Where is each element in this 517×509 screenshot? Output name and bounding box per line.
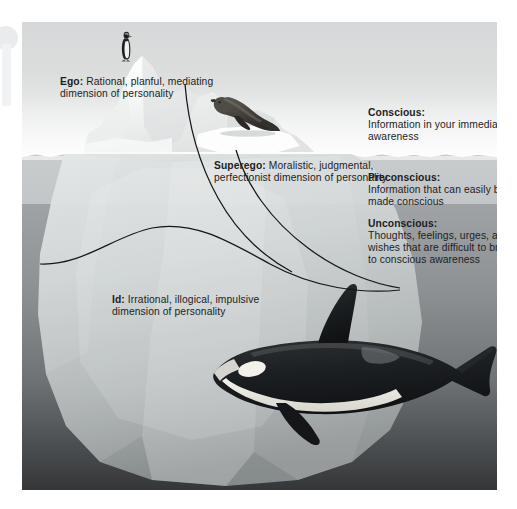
label-unconscious-body: Thoughts, feelings, urges, and wishes th…	[368, 230, 497, 266]
label-ego-body: Rational, planful, mediating dimension o…	[60, 76, 213, 99]
label-id-heading: Id:	[112, 294, 125, 305]
page-background: Ego: Rational, planful, mediating dimens…	[0, 0, 517, 509]
label-unconscious-heading: Unconscious:	[368, 218, 497, 230]
label-preconscious: Preconscious: Information that can easil…	[368, 172, 497, 208]
label-unconscious: Unconscious: Thoughts, feelings, urges, …	[368, 218, 497, 267]
label-conscious-body: Information in your immediate awareness	[368, 119, 497, 143]
label-conscious: Conscious: Information in your immediate…	[368, 107, 497, 143]
iceberg-diagram: Ego: Rational, planful, mediating dimens…	[22, 22, 497, 490]
label-ego: Ego: Rational, planful, mediating dimens…	[60, 76, 220, 100]
label-id-body: Irrational, illogical, impulsive dimensi…	[112, 294, 259, 317]
label-preconscious-body: Information that can easily be made cons…	[368, 184, 497, 208]
label-superego: Superego: Moralistic, judgmental, perfec…	[214, 160, 394, 184]
label-id: Id: Irrational, illogical, impulsive dim…	[112, 294, 282, 318]
label-preconscious-heading: Preconscious:	[368, 172, 497, 184]
label-conscious-heading: Conscious:	[368, 107, 497, 119]
label-ego-heading: Ego:	[60, 76, 83, 87]
label-superego-heading: Superego:	[214, 160, 266, 171]
scan-artifact-bar	[2, 44, 11, 106]
